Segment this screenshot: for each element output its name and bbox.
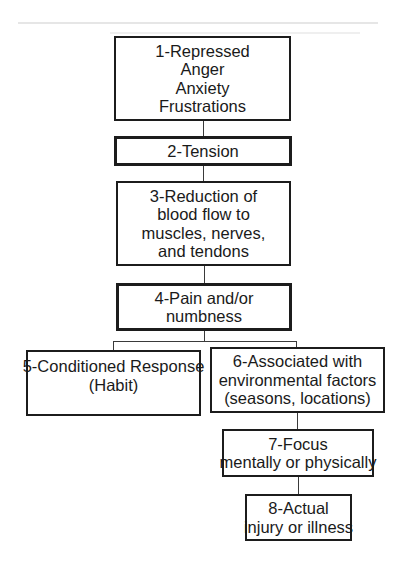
connector-1-2 bbox=[203, 121, 204, 136]
connector-3-4 bbox=[204, 266, 205, 283]
node-text-line: mentally or physically bbox=[220, 453, 377, 472]
branch-line bbox=[113, 341, 297, 342]
node-text-line: Frustrations bbox=[159, 97, 246, 116]
node-6-environmental-factors: 6-Associated with environmental factors … bbox=[210, 347, 385, 413]
node-text-line: Anxiety bbox=[175, 79, 229, 98]
node-text-line: 3-Reduction of bbox=[150, 187, 257, 206]
node-text-line: 7-Focus bbox=[268, 435, 328, 454]
connector-4-branch bbox=[204, 331, 205, 341]
node-2-tension: 2-Tension bbox=[114, 136, 292, 166]
node-text-line: muscles, nerves, bbox=[142, 224, 266, 243]
node-text-line: (Habit) bbox=[89, 376, 139, 395]
connector-7-8 bbox=[298, 477, 299, 494]
node-text-line: 4-Pain and/or bbox=[154, 289, 253, 308]
scan-artifact bbox=[18, 22, 378, 24]
node-text-line: environmental factors bbox=[219, 371, 377, 390]
node-text-line: 2-Tension bbox=[167, 142, 239, 161]
node-text-line: Anger bbox=[180, 60, 224, 79]
connector-2-3 bbox=[203, 166, 204, 181]
node-text-line: injury or illness bbox=[244, 518, 353, 537]
connector-branch-5 bbox=[113, 341, 114, 350]
node-text-line: 8-Actual bbox=[268, 499, 329, 518]
connector-6-7 bbox=[297, 413, 298, 429]
node-8-actual-injury: 8-Actual injury or illness bbox=[245, 494, 352, 541]
node-text-line: numbness bbox=[166, 307, 242, 326]
node-4-pain-numbness: 4-Pain and/or numbness bbox=[116, 283, 292, 331]
node-1-repressed-emotions: 1-Repressed Anger Anxiety Frustrations bbox=[114, 36, 291, 121]
node-text-line: 6-Associated with bbox=[233, 352, 362, 371]
node-5-conditioned-response: 5-Conditioned Response (Habit) bbox=[26, 350, 201, 416]
scan-artifact bbox=[110, 32, 360, 34]
node-text-line: (seasons, locations) bbox=[224, 389, 371, 408]
node-text-line: 1-Repressed bbox=[155, 42, 249, 61]
node-3-reduction-of-blood-flow: 3-Reduction of blood flow to muscles, ne… bbox=[116, 181, 291, 266]
node-7-focus: 7-Focus mentally or physically bbox=[222, 429, 374, 477]
node-text-line: 5-Conditioned Response bbox=[23, 357, 205, 376]
node-text-line: and tendons bbox=[158, 242, 249, 261]
node-text-line: blood flow to bbox=[157, 205, 250, 224]
